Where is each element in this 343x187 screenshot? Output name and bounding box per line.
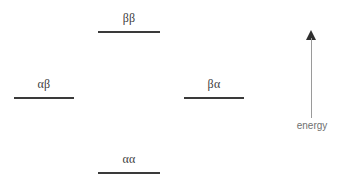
energy-level-ba-label: βα bbox=[184, 77, 244, 92]
energy-level-ab-label: αβ bbox=[14, 77, 74, 92]
energy-level-ba-line bbox=[184, 97, 244, 99]
energy-axis-shaft bbox=[311, 38, 312, 118]
energy-axis: energy bbox=[300, 28, 343, 138]
energy-level-bb-line bbox=[98, 31, 160, 33]
energy-level-diagram: ββ αβ βα αα energy bbox=[0, 0, 343, 187]
energy-level-aa-line bbox=[98, 172, 160, 174]
energy-axis-label: energy bbox=[286, 120, 338, 131]
energy-level-ab-line bbox=[14, 97, 74, 99]
energy-level-bb-label: ββ bbox=[98, 11, 160, 26]
energy-level-aa-label: αα bbox=[98, 152, 160, 167]
